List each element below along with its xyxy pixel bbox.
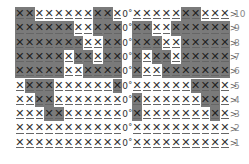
back-loop-underline (16, 61, 24, 62)
left-stitch-cell: ✕ (54, 121, 64, 135)
back-loop-underline (75, 90, 83, 91)
back-loop-underline (65, 104, 73, 105)
back-loop-underline (192, 147, 200, 148)
back-loop-underline (55, 104, 63, 105)
back-loop-underline (84, 133, 92, 134)
left-stitch-cell: ✕ (93, 64, 103, 78)
left-stitch-cell: ✕ (35, 7, 45, 21)
back-loop-underline (163, 133, 171, 134)
left-stitch-cell: ✕ (113, 50, 123, 64)
row-number: 5 (234, 79, 240, 93)
row-number: 10 (234, 7, 245, 21)
right-stitch-cell: ✕ (132, 79, 142, 93)
right-stitch-cell: ✕ (171, 136, 181, 150)
right-stitch-cell: ✕ (142, 93, 152, 107)
left-stitch-cell: ✕ (74, 107, 84, 121)
row-number: 4 (234, 93, 240, 107)
right-stitch-cell: ✕ (220, 107, 230, 121)
right-stitch-cell: ✕ (201, 50, 211, 64)
left-stitch-cell: ✕ (54, 50, 64, 64)
back-loop-underline (192, 133, 200, 134)
back-loop-underline (172, 33, 180, 34)
right-stitch-cell: ✕ (171, 93, 181, 107)
back-loop-underline (16, 133, 24, 134)
back-loop-underline (221, 18, 229, 19)
right-stitch-cell: ✕ (171, 36, 181, 50)
right-stitch-cell: ✕ (132, 121, 142, 135)
back-loop-underline (26, 147, 34, 148)
right-stitch-cell: ✕ (132, 21, 142, 35)
back-loop-underline (16, 75, 24, 76)
left-stitch-cell: ✕ (15, 7, 25, 21)
left-stitch-cell: ✕ (64, 64, 74, 78)
right-stitch-cell: ✕ (162, 121, 172, 135)
back-loop-underline (45, 90, 53, 91)
back-loop-underline (182, 104, 190, 105)
back-loop-underline (221, 61, 229, 62)
back-loop-underline (182, 33, 190, 34)
back-loop-underline (211, 104, 219, 105)
back-loop-underline (114, 33, 122, 34)
right-stitch-cell: ✕ (142, 79, 152, 93)
back-loop-underline (55, 133, 63, 134)
back-loop-underline (65, 118, 73, 119)
right-stitch-cell: ✕ (220, 50, 230, 64)
left-stitch-cell: ✕ (103, 79, 113, 93)
back-loop-underline (211, 118, 219, 119)
back-loop-underline (45, 33, 53, 34)
left-stitch-cell: ✕ (15, 136, 25, 150)
back-loop-underline (153, 33, 161, 34)
right-stitch-cell: ✕ (210, 36, 220, 50)
back-loop-underline (114, 61, 122, 62)
back-loop-underline (163, 33, 171, 34)
chain-stitch-icon: 0˚ (122, 121, 132, 135)
left-stitch-cell: ✕ (93, 21, 103, 35)
back-loop-underline (94, 75, 102, 76)
right-stitch-cell: ✕ (142, 136, 152, 150)
right-stitch-cell: ✕ (181, 7, 191, 21)
left-stitch-cell: ✕ (83, 7, 93, 21)
back-loop-underline (55, 147, 63, 148)
left-stitch-cell: ✕ (64, 7, 74, 21)
back-loop-underline (36, 18, 44, 19)
right-stitch-cell: ✕ (152, 64, 162, 78)
back-loop-underline (202, 33, 210, 34)
left-stitch-cell: ✕ (15, 121, 25, 135)
right-stitch-cell: ✕ (191, 7, 201, 21)
back-loop-underline (143, 133, 151, 134)
left-stitch-cell: ✕ (35, 107, 45, 121)
left-stitch-cell: ✕ (44, 121, 54, 135)
back-loop-underline (104, 75, 112, 76)
right-stitch-cell: ✕ (142, 7, 152, 21)
back-loop-underline (84, 104, 92, 105)
chain-stitch-icon: 0˚ (122, 50, 132, 64)
left-stitch-cell: ✕ (113, 136, 123, 150)
left-stitch-cell: ✕ (74, 7, 84, 21)
back-loop-underline (114, 118, 122, 119)
right-stitch-cell: ✕ (142, 50, 152, 64)
back-loop-underline (16, 118, 24, 119)
back-loop-underline (172, 133, 180, 134)
back-loop-underline (94, 18, 102, 19)
left-stitch-cell: ✕ (44, 107, 54, 121)
back-loop-underline (192, 33, 200, 34)
right-stitch-cell: ✕ (210, 7, 220, 21)
left-stitch-cell: ✕ (93, 93, 103, 107)
chart-row: ✕✕✕✕✕✕✕✕✕✕✕0˚✕✕✕✕✕✕✕✕✕✕> (12, 7, 236, 21)
back-loop-underline (84, 90, 92, 91)
back-loop-underline (104, 104, 112, 105)
left-stitch-cell: ✕ (74, 21, 84, 35)
left-stitch-cell: ✕ (35, 50, 45, 64)
back-loop-underline (221, 147, 229, 148)
back-loop-underline (202, 133, 210, 134)
back-loop-underline (65, 47, 73, 48)
right-stitch-cell: ✕ (191, 64, 201, 78)
left-stitch-cell: ✕ (83, 36, 93, 50)
back-loop-underline (36, 133, 44, 134)
left-stitch-cell: ✕ (35, 136, 45, 150)
right-stitch-cell: ✕ (181, 21, 191, 35)
left-stitch-cell: ✕ (64, 21, 74, 35)
back-loop-underline (163, 104, 171, 105)
left-stitch-cell: ✕ (64, 79, 74, 93)
chart-row: ✕✕✕✕✕✕✕✕✕✕✕0˚✕✕✕✕✕✕✕✕✕✕> (12, 93, 236, 107)
